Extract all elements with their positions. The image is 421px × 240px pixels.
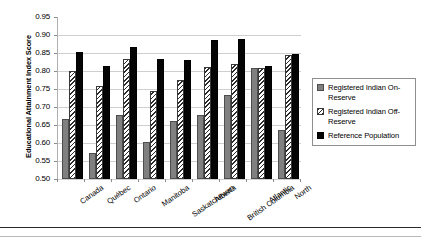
- bar: [103, 66, 110, 179]
- bar-group: [197, 17, 218, 179]
- y-axis-tick-label: 0.85: [20, 49, 50, 57]
- y-axis-tick-label: 0.95: [20, 13, 50, 21]
- bar: [197, 115, 204, 179]
- x-axis-tick-mark: [57, 179, 58, 182]
- legend-swatch-icon: [317, 108, 324, 115]
- bar: [123, 59, 130, 179]
- bar-group: [251, 17, 272, 179]
- bar: [224, 95, 231, 179]
- gridline: [58, 179, 301, 180]
- bar: [69, 71, 76, 179]
- bar-group: [278, 17, 299, 179]
- y-axis-tick-label: 0.80: [20, 67, 50, 75]
- legend-item[interactable]: Registered Indian On-Reserve: [317, 83, 412, 102]
- legend-item[interactable]: Reference Population: [317, 131, 412, 141]
- plot-area: [57, 17, 301, 180]
- bar-group: [224, 17, 245, 179]
- x-axis-tick-mark: [165, 179, 166, 182]
- bar-group: [116, 17, 137, 179]
- x-axis-label-north: North: [293, 184, 313, 201]
- bar: [170, 121, 177, 179]
- y-axis-tick-label: 0.65: [20, 121, 50, 129]
- bar: [251, 68, 258, 179]
- bar: [265, 66, 272, 179]
- y-axis-tick-label: 0.75: [20, 85, 50, 93]
- x-axis-tick-mark: [138, 179, 139, 182]
- bottom-divider-secondary: [0, 236, 421, 237]
- bar: [184, 60, 191, 179]
- bar: [150, 91, 157, 179]
- x-axis-tick-mark: [84, 179, 85, 182]
- x-axis-tick-mark: [111, 179, 112, 182]
- bar: [231, 64, 238, 179]
- legend-item-label: Registered Indian On-Reserve: [328, 83, 412, 102]
- x-axis-label-qu-bec: Québec: [106, 184, 132, 206]
- bar: [177, 80, 184, 179]
- chart-legend: Registered Indian On-ReserveRegistered I…: [312, 78, 416, 146]
- bar: [116, 115, 123, 179]
- legend-swatch-icon: [317, 132, 324, 139]
- y-axis-tick-label: 0.60: [20, 139, 50, 147]
- bar-group: [62, 17, 83, 179]
- x-axis-tick-mark: [219, 179, 220, 182]
- y-axis-tick-label: 0.90: [20, 31, 50, 39]
- bottom-divider: [0, 227, 421, 228]
- bar: [89, 153, 96, 179]
- bar: [238, 39, 245, 179]
- bar: [258, 68, 265, 179]
- x-axis-tick-mark: [300, 179, 301, 182]
- legend-swatch-icon: [317, 84, 324, 91]
- legend-item[interactable]: Registered Indian Off-Reserve: [317, 107, 412, 126]
- bar: [292, 54, 299, 179]
- legend-item-label: Registered Indian Off-Reserve: [328, 107, 412, 126]
- bar-group: [143, 17, 164, 179]
- bar: [143, 142, 150, 179]
- x-axis-label-manitoba: Manitoba: [160, 184, 190, 208]
- x-axis-label-ontario: Ontario: [132, 184, 157, 205]
- bar: [285, 55, 292, 179]
- bar-group: [89, 17, 110, 179]
- bar: [62, 119, 69, 179]
- x-axis-tick-mark: [246, 179, 247, 182]
- bar-group: [170, 17, 191, 179]
- bar: [211, 40, 218, 179]
- y-axis-tick-label: 0.50: [20, 175, 50, 183]
- bar-chart: Educational Attainment Index Score 0.950…: [0, 0, 421, 240]
- bar: [278, 130, 285, 179]
- y-axis-tick-label: 0.70: [20, 103, 50, 111]
- bar: [204, 67, 211, 179]
- x-axis-label-canada: Canada: [79, 184, 105, 206]
- x-axis-tick-mark: [273, 179, 274, 182]
- y-axis-tick-label: 0.55: [20, 157, 50, 165]
- legend-item-label: Reference Population: [328, 131, 399, 141]
- bar: [96, 86, 103, 179]
- bar: [76, 52, 83, 179]
- x-axis-tick-mark: [192, 179, 193, 182]
- bar: [130, 47, 137, 179]
- x-axis-label-alberta: Alberta: [213, 184, 237, 204]
- bar: [157, 59, 164, 179]
